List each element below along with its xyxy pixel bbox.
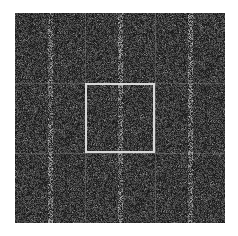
tile-grid (15, 13, 225, 223)
center-tile-highlight (85, 83, 155, 153)
gridline-vertical-2 (155, 13, 156, 223)
gridline-horizontal-2 (15, 153, 225, 154)
